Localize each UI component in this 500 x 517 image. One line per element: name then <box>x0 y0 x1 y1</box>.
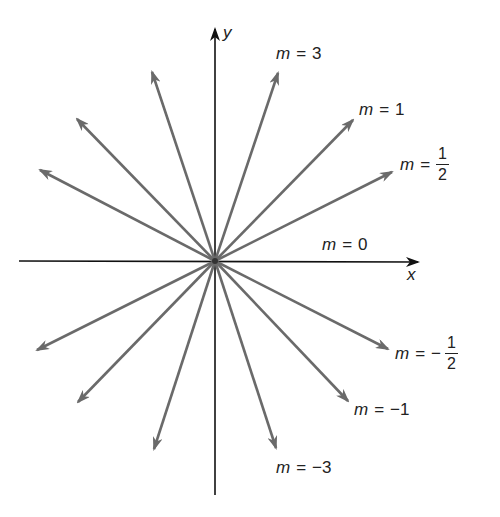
slope-arrow <box>215 261 276 448</box>
equals-sign: = <box>374 400 384 419</box>
slope-fraction: 1 2 <box>436 146 449 183</box>
fraction-numerator: 1 <box>436 146 449 165</box>
equals-sign: = <box>415 345 425 362</box>
slope-var: m <box>322 235 336 254</box>
label-m-3: m=3 <box>276 45 322 62</box>
slope-arrow <box>78 261 215 402</box>
equals-sign: = <box>296 44 306 63</box>
slope-var: m <box>359 100 373 119</box>
slope-value: 0 <box>358 235 367 254</box>
slope-value: −3 <box>312 458 331 477</box>
equals-sign: = <box>420 156 430 173</box>
label-m-neg-1: m=−1 <box>354 401 410 418</box>
slope-fraction: 1 2 <box>445 335 458 372</box>
fraction-numerator: 1 <box>445 335 458 354</box>
slope-var: m <box>400 156 414 173</box>
slope-var: m <box>354 400 368 419</box>
label-m-0: m=0 <box>322 236 368 253</box>
label-m-neg-3: m=−3 <box>276 459 332 476</box>
slope-arrow <box>215 261 388 349</box>
slope-arrow <box>37 261 215 350</box>
slope-value: 3 <box>312 44 321 63</box>
x-axis-label: x <box>407 266 416 283</box>
equals-sign: = <box>379 100 389 119</box>
equals-sign: = <box>296 458 306 477</box>
slope-diagram <box>0 0 500 517</box>
slope-arrow <box>77 119 215 261</box>
slope-value: −1 <box>390 400 409 419</box>
slope-var: m <box>276 458 290 477</box>
label-m-1: m=1 <box>359 101 405 118</box>
fraction-denominator: 2 <box>438 165 447 183</box>
slope-var: m <box>395 345 409 362</box>
equals-sign: = <box>342 235 352 254</box>
slope-var: m <box>276 44 290 63</box>
origin-point <box>212 258 218 264</box>
slope-value: 1 <box>395 100 404 119</box>
label-m-half: m= 1 2 <box>400 146 449 183</box>
slope-arrow <box>215 261 348 401</box>
fraction-denominator: 2 <box>447 354 456 372</box>
label-m-neg-half: m= − 1 2 <box>395 335 458 372</box>
minus-sign: − <box>431 345 441 362</box>
slope-arrow <box>154 261 215 449</box>
y-axis-label: y <box>223 24 232 41</box>
